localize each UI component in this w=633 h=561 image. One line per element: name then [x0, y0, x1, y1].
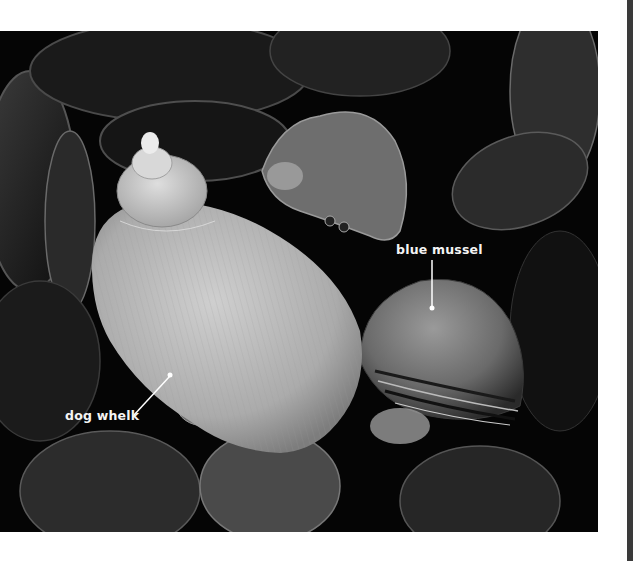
annotated-photo: blue mussel dog whelk: [0, 31, 598, 532]
mussel-leader-dot: [430, 306, 435, 311]
label-blue-mussel: blue mussel: [396, 243, 483, 257]
photo-illustration: [0, 31, 598, 532]
label-dog-whelk: dog whelk: [65, 409, 139, 423]
whelk-leader-dot: [168, 373, 173, 378]
mussel-shell: [360, 279, 523, 444]
page-edge-strip: [627, 0, 633, 561]
